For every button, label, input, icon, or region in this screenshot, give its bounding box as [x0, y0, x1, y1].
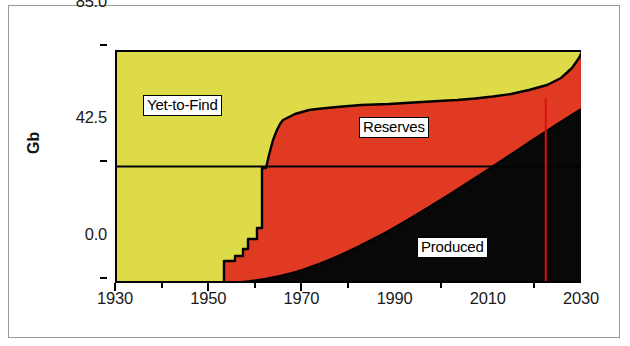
y-tick-mark-42 [100, 160, 107, 162]
x-tick-mark-1980 [347, 283, 349, 288]
label-yet-to-find: Yet-to-Find [143, 95, 222, 116]
x-tick-label-2030: 2030 [546, 289, 616, 308]
y-tick-label-85: 85.0 [76, 0, 107, 11]
x-tick-label-1950: 1950 [173, 289, 243, 308]
label-reserves: Reserves [359, 117, 429, 138]
y-tick-mark-0 [100, 277, 107, 279]
stacked-area-series [117, 50, 581, 283]
plot-area: Yet-to-Find Reserves Produced [115, 50, 581, 283]
x-tick-mark-2000 [440, 283, 442, 288]
label-produced: Produced [417, 237, 488, 258]
x-tick-mark-1960 [254, 283, 256, 288]
y-tick-label-42: 42.5 [76, 108, 107, 127]
x-tick-label-1990: 1990 [360, 289, 430, 308]
x-tick-mark-1940 [161, 283, 163, 288]
y-tick-label-0: 0.0 [85, 225, 107, 244]
x-tick-label-1930: 1930 [80, 289, 150, 308]
x-tick-mark-2020 [533, 283, 535, 288]
y-tick-mark-85 [100, 44, 107, 46]
x-tick-label-2010: 2010 [453, 289, 523, 308]
figure-frame: Gb 85.0 42.5 0.0 [8, 5, 620, 338]
x-tick-label-1970: 1970 [266, 289, 336, 308]
